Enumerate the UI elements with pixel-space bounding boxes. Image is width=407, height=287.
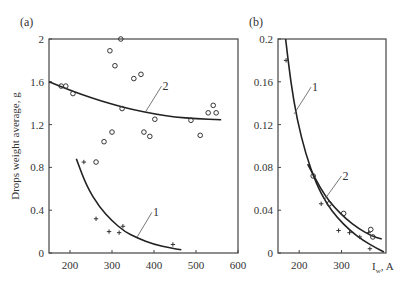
circle-marker xyxy=(94,160,99,165)
curve-label-1: 1 xyxy=(312,80,318,94)
panel-b-data-points xyxy=(284,58,375,251)
y-tick-label: 0.12 xyxy=(254,119,273,131)
leader-line xyxy=(146,86,162,112)
plus-marker xyxy=(82,160,86,164)
leader-line xyxy=(325,176,342,200)
x-tick-label: 300 xyxy=(104,259,121,271)
circle-marker xyxy=(148,134,153,139)
x-tick-label: 600 xyxy=(230,259,247,271)
plus-marker xyxy=(107,229,111,233)
panel-a-curves: 12 xyxy=(49,79,221,250)
y-tick-label: 0.16 xyxy=(254,76,274,88)
plus-marker xyxy=(319,202,323,206)
circle-marker xyxy=(64,84,69,89)
y-tick-label: 1.2 xyxy=(30,119,44,131)
curve-label-2: 2 xyxy=(343,169,349,183)
plus-marker xyxy=(336,228,340,232)
x-tick-label: 200 xyxy=(291,259,308,271)
plus-marker xyxy=(171,242,175,246)
circle-marker xyxy=(368,227,373,232)
circle-marker xyxy=(108,48,113,53)
leader-line xyxy=(137,212,152,237)
circle-marker xyxy=(206,111,211,116)
circle-marker xyxy=(153,117,158,122)
y-tick-label: 0 xyxy=(268,247,274,259)
y-tick-label: 0.4 xyxy=(30,204,44,216)
plus-marker xyxy=(117,230,121,234)
x-tick-label: 200 xyxy=(62,259,79,271)
curve-label-2: 2 xyxy=(163,79,169,93)
chart-figure: (a) 00.40.81.21.62 200300400500600 Drops… xyxy=(0,0,407,287)
panel-b-x-axis-label: Iw, A xyxy=(372,260,394,275)
y-tick-label: 1.6 xyxy=(30,76,44,88)
leader-line xyxy=(294,87,311,114)
circle-marker xyxy=(139,72,144,77)
panel-b-plot-frame xyxy=(278,39,386,253)
plus-marker xyxy=(94,217,98,221)
curve-1 xyxy=(76,159,181,250)
y-tick-label: 0.04 xyxy=(254,204,274,216)
curve-label-1: 1 xyxy=(153,205,159,219)
plus-marker xyxy=(368,247,372,251)
y-tick-label: 2 xyxy=(39,33,45,45)
x-tick-label: 400 xyxy=(146,259,163,271)
panel-b: (b) 00.040.080.120.160.2 200300 Iw, A 12 xyxy=(249,15,394,275)
y-tick-label: 0.2 xyxy=(259,33,273,45)
panel-a-label: (a) xyxy=(20,15,33,29)
panel-b-y-axis: 00.040.080.120.160.2 xyxy=(254,33,281,259)
panel-a-y-axis-label: Drops weight average, g xyxy=(9,92,21,200)
panel-a-plot-frame xyxy=(49,39,238,253)
x-tick-label: 300 xyxy=(333,259,350,271)
panel-b-label: (b) xyxy=(249,15,263,29)
panel-a: (a) 00.40.81.21.62 200300400500600 Drops… xyxy=(9,15,247,271)
y-tick-label: 0.8 xyxy=(30,161,44,173)
panel-a-data-points xyxy=(59,37,219,247)
panel-b-curves: 12 xyxy=(286,39,384,252)
circle-marker xyxy=(110,130,115,135)
circle-marker xyxy=(198,133,203,138)
y-tick-label: 0.08 xyxy=(254,161,274,173)
curve-1 xyxy=(286,39,384,252)
circle-marker xyxy=(132,76,137,81)
circle-marker xyxy=(142,130,147,135)
circle-marker xyxy=(113,63,118,68)
y-tick-label: 0 xyxy=(39,247,45,259)
curve-2 xyxy=(49,82,221,120)
x-tick-label: 500 xyxy=(188,259,205,271)
circle-marker xyxy=(214,111,219,116)
circle-marker xyxy=(211,103,216,108)
circle-marker xyxy=(341,211,346,216)
circle-marker xyxy=(102,139,107,144)
